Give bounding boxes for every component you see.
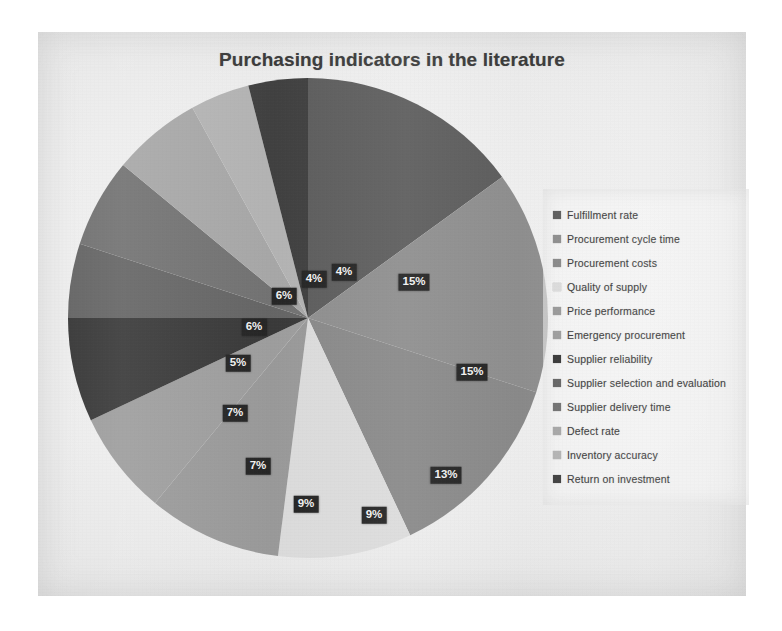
pie-data-label: 9%: [294, 496, 319, 513]
legend-item[interactable]: Supplier selection and evaluation: [549, 371, 745, 395]
legend-swatch-icon: [553, 259, 561, 267]
pie-data-label: 13%: [430, 467, 461, 484]
legend-item-label: Procurement costs: [567, 257, 657, 269]
pie-data-label: 15%: [456, 364, 487, 381]
legend-item-label: Emergency procurement: [567, 329, 685, 341]
pie-data-label: 6%: [242, 319, 267, 336]
legend-item[interactable]: Supplier reliability: [549, 347, 745, 371]
legend-swatch-icon: [553, 283, 561, 291]
legend-item-label: Supplier reliability: [567, 353, 652, 365]
legend-swatch-icon: [553, 427, 561, 435]
legend-item-label: Price performance: [567, 305, 655, 317]
legend-item-label: Supplier delivery time: [567, 401, 671, 413]
pie-data-label: 7%: [223, 405, 248, 422]
legend-swatch-icon: [553, 355, 561, 363]
legend-swatch-icon: [553, 331, 561, 339]
legend-item[interactable]: Inventory accuracy: [549, 443, 745, 467]
legend-item-label: Procurement cycle time: [567, 233, 680, 245]
pie-data-label: 9%: [362, 507, 387, 524]
legend-item[interactable]: Procurement cycle time: [549, 227, 745, 251]
scanned-page: Purchasing indicators in the literature …: [0, 0, 782, 631]
chart-legend: Fulfillment rateProcurement cycle timePr…: [543, 189, 749, 505]
legend-item[interactable]: Defect rate: [549, 419, 745, 443]
legend-item-label: Defect rate: [567, 425, 620, 437]
pie-data-label: 7%: [246, 458, 271, 475]
legend-item[interactable]: Procurement costs: [549, 251, 745, 275]
legend-swatch-icon: [553, 379, 561, 387]
pie-data-label: 6%: [272, 288, 297, 305]
legend-item-label: Supplier selection and evaluation: [567, 377, 726, 389]
pie-slice-group: [68, 78, 548, 558]
legend-item-label: Inventory accuracy: [567, 449, 658, 461]
legend-item[interactable]: Quality of supply: [549, 275, 745, 299]
pie-data-label: 4%: [332, 264, 357, 281]
legend-item-label: Quality of supply: [567, 281, 647, 293]
pie-data-label: 15%: [398, 274, 429, 291]
pie-chart: 15%15%13%9%9%7%7%5%6%6%4%4%: [60, 56, 560, 576]
pie-data-label: 5%: [226, 355, 251, 372]
legend-swatch-icon: [553, 211, 561, 219]
legend-item[interactable]: Emergency procurement: [549, 323, 745, 347]
pie-data-label: 4%: [302, 271, 327, 288]
legend-item[interactable]: Return on investment: [549, 467, 745, 491]
legend-item[interactable]: Supplier delivery time: [549, 395, 745, 419]
legend-item[interactable]: Price performance: [549, 299, 745, 323]
legend-swatch-icon: [553, 475, 561, 483]
chart-frame: Purchasing indicators in the literature …: [38, 32, 746, 596]
legend-swatch-icon: [553, 235, 561, 243]
legend-swatch-icon: [553, 451, 561, 459]
legend-swatch-icon: [553, 403, 561, 411]
legend-item-label: Fulfillment rate: [567, 209, 638, 221]
legend-item[interactable]: Fulfillment rate: [549, 203, 745, 227]
legend-swatch-icon: [553, 307, 561, 315]
legend-item-label: Return on investment: [567, 473, 670, 485]
